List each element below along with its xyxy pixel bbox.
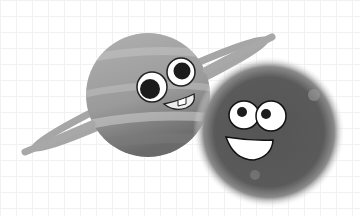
ringed-planet-left-eye xyxy=(137,72,167,102)
planets-illustration xyxy=(0,0,360,216)
ringed-planet-right-eye xyxy=(167,58,195,86)
glowing-planet-left-eye xyxy=(229,101,259,129)
glowing-planet xyxy=(193,56,345,208)
glowing-planet-right-eye xyxy=(256,101,286,131)
